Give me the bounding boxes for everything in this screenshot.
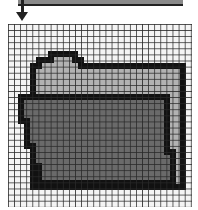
toolbar-bar [18,0,183,6]
pixel-editor-canvas[interactable] [8,24,192,207]
front-folder-fill [24,100,170,180]
arrow-head-icon [16,12,28,21]
folder-icon [8,24,192,207]
